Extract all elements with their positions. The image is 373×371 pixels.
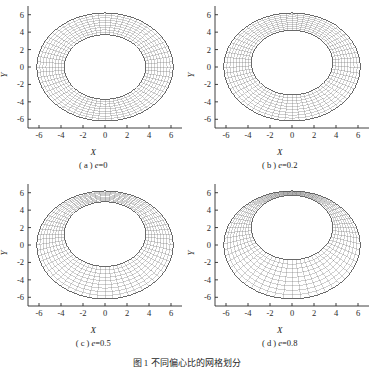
svg-text:-2: -2	[17, 79, 24, 89]
svg-text:-4: -4	[58, 308, 66, 318]
mesh-svg-a: -6-4-202466420-2-4-6	[0, 0, 186, 150]
svg-text:-4: -4	[17, 275, 25, 285]
mesh-svg-d: -6-4-202466420-2-4-6	[187, 178, 373, 328]
svg-text:6: 6	[169, 308, 173, 318]
svg-text:4: 4	[207, 205, 212, 215]
svg-text:-2: -2	[204, 257, 211, 267]
svg-text:4: 4	[334, 308, 339, 318]
panel-caption-d: ( d ) e=0.8	[262, 338, 298, 348]
svg-text:0: 0	[207, 62, 211, 72]
svg-text:6: 6	[207, 188, 211, 198]
svg-text:0: 0	[207, 240, 211, 250]
svg-text:4: 4	[20, 27, 25, 37]
svg-text:6: 6	[20, 188, 24, 198]
panel-caption-b: ( b ) e=0.2	[262, 160, 298, 170]
svg-text:-2: -2	[266, 308, 273, 318]
plot-c: Y -6-4-202466420-2-4-6	[0, 178, 186, 328]
panel-b: Y -6-4-202466420-2-4-6 X ( b ) e=0.2	[187, 0, 373, 178]
svg-text:4: 4	[147, 130, 152, 140]
panel-caption-c-index: ( c )	[76, 338, 92, 348]
svg-text:2: 2	[207, 223, 211, 233]
svg-text:-6: -6	[222, 130, 229, 140]
svg-text:2: 2	[125, 308, 129, 318]
svg-text:6: 6	[207, 10, 211, 20]
svg-text:-4: -4	[244, 308, 252, 318]
svg-text:-6: -6	[204, 114, 211, 124]
svg-text:4: 4	[207, 27, 212, 37]
svg-text:4: 4	[20, 205, 25, 215]
svg-text:-6: -6	[222, 308, 229, 318]
y-axis-label-d: Y	[185, 250, 195, 255]
svg-text:-6: -6	[36, 308, 43, 318]
figure-eccentric-annulus-meshes: Y -6-4-202466420-2-4-6 X ( a ) e=0 Y -6-…	[0, 0, 373, 371]
panel-caption-c: ( c ) e=0.5	[76, 338, 111, 348]
svg-text:-6: -6	[36, 130, 43, 140]
panel-caption-b-value: =0.2	[282, 160, 297, 170]
panel-d: Y -6-4-202466420-2-4-6 X ( d ) e=0.8	[187, 178, 373, 356]
svg-text:-2: -2	[266, 130, 273, 140]
y-axis-label-a: Y	[0, 72, 9, 77]
mesh-svg-b: -6-4-202466420-2-4-6	[187, 0, 373, 150]
svg-text:-2: -2	[204, 79, 211, 89]
svg-text:-4: -4	[17, 97, 25, 107]
svg-text:0: 0	[20, 62, 24, 72]
svg-text:0: 0	[290, 130, 294, 140]
svg-text:2: 2	[20, 223, 24, 233]
figure-caption: 图 1 不同偏心比的网格划分	[0, 358, 373, 371]
plot-b: Y -6-4-202466420-2-4-6	[187, 0, 373, 150]
y-axis-label-b: Y	[185, 72, 195, 77]
svg-text:4: 4	[334, 130, 339, 140]
svg-text:4: 4	[147, 308, 152, 318]
svg-text:-2: -2	[17, 257, 24, 267]
plot-d: Y -6-4-202466420-2-4-6	[187, 178, 373, 328]
svg-text:-2: -2	[80, 130, 87, 140]
svg-text:-6: -6	[17, 292, 24, 302]
svg-text:-6: -6	[204, 292, 211, 302]
svg-text:-4: -4	[204, 97, 212, 107]
plot-a: Y -6-4-202466420-2-4-6	[0, 0, 186, 150]
svg-text:-4: -4	[204, 275, 212, 285]
svg-text:0: 0	[103, 308, 107, 318]
panel-grid: Y -6-4-202466420-2-4-6 X ( a ) e=0 Y -6-…	[0, 0, 373, 356]
svg-text:-6: -6	[17, 114, 24, 124]
svg-text:2: 2	[20, 45, 24, 55]
svg-text:2: 2	[125, 130, 129, 140]
svg-text:-4: -4	[58, 130, 66, 140]
svg-text:6: 6	[356, 308, 360, 318]
svg-text:-4: -4	[244, 130, 252, 140]
panel-c: Y -6-4-202466420-2-4-6 X ( c ) e=0.5	[0, 178, 187, 356]
panel-caption-d-index: ( d )	[262, 338, 278, 348]
panel-caption-a-value: =0	[99, 160, 108, 170]
panel-caption-d-value: =0.8	[282, 338, 297, 348]
svg-text:0: 0	[103, 130, 107, 140]
svg-text:6: 6	[20, 10, 24, 20]
svg-text:0: 0	[20, 240, 24, 250]
mesh-svg-c: -6-4-202466420-2-4-6	[0, 178, 186, 328]
panel-caption-b-index: ( b )	[262, 160, 278, 170]
panel-caption-a: ( a ) e=0	[79, 160, 108, 170]
svg-text:2: 2	[312, 308, 316, 318]
svg-text:6: 6	[356, 130, 360, 140]
svg-text:6: 6	[169, 130, 173, 140]
panel-caption-c-value: =0.5	[95, 338, 110, 348]
svg-text:2: 2	[312, 130, 316, 140]
svg-text:0: 0	[290, 308, 294, 318]
svg-text:-2: -2	[80, 308, 87, 318]
panel-caption-a-index: ( a )	[79, 160, 95, 170]
y-axis-label-c: Y	[0, 250, 9, 255]
panel-a: Y -6-4-202466420-2-4-6 X ( a ) e=0	[0, 0, 187, 178]
svg-text:2: 2	[207, 45, 211, 55]
